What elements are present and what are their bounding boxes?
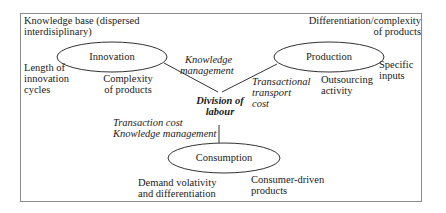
production-below-annotation: Outsourcing activity <box>321 74 373 96</box>
innovation-left-annotation: Length of innovation cycles <box>24 62 69 95</box>
text-line: Transactional <box>252 76 310 87</box>
text-line: and differentiation <box>138 188 216 199</box>
text-line: transport <box>252 87 310 98</box>
text-line: interdisiplinary) <box>24 26 139 37</box>
center-label: Division of labour <box>182 95 258 117</box>
text-line: Differentiation/complexity <box>309 15 421 26</box>
top-right-label: Differentiation/complexity of products <box>309 15 421 37</box>
text-line: inputs <box>379 70 413 81</box>
text-line: cost <box>252 98 310 109</box>
text-line: Transaction cost <box>113 117 217 128</box>
node-innovation: Innovation <box>57 51 167 62</box>
text-line: Knowledge <box>180 54 234 65</box>
text-line: Specific <box>379 59 413 70</box>
consumption-left-annotation: Demand volativity and differentiation <box>138 177 216 199</box>
center-line-1: Division of <box>182 95 258 106</box>
text-line: of products <box>309 26 421 37</box>
production-edge-label: Transactional transport cost <box>252 76 310 109</box>
production-right-annotation: Specific inputs <box>379 59 413 81</box>
consumption-edge-label: Transaction cost Knowledge management <box>113 117 217 139</box>
center-line-2: labour <box>182 106 258 117</box>
text-line: Length of <box>24 62 69 73</box>
text-line: Knowledge base (dispersed <box>24 15 139 26</box>
node-production: Production <box>274 51 384 62</box>
node-consumption: Consumption <box>168 152 280 163</box>
innovation-edge-label: Knowledge management <box>180 54 234 76</box>
text-line: activity <box>321 85 373 96</box>
text-line: innovation <box>24 73 69 84</box>
text-line: Complexity <box>98 73 158 84</box>
text-line: of products <box>98 84 158 95</box>
text-line: management <box>180 65 234 76</box>
text-line: Knowledge management <box>113 128 217 139</box>
consumption-right-annotation: Consumer-driven products <box>251 174 324 196</box>
innovation-below-annotation: Complexity of products <box>98 73 158 95</box>
top-left-label: Knowledge base (dispersed interdisiplina… <box>24 15 139 37</box>
text-line: Consumer-driven <box>251 174 324 185</box>
text-line: products <box>251 185 324 196</box>
text-line: cycles <box>24 84 69 95</box>
text-line: Outsourcing <box>321 74 373 85</box>
text-line: Demand volativity <box>138 177 216 188</box>
